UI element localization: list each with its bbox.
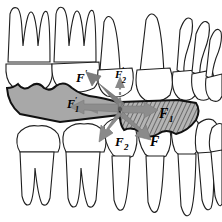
molar-root-2 bbox=[54, 7, 96, 62]
dental-force-diagram: F ′ F ′ 2 F ′ 1 F 1 F 2 F bbox=[0, 0, 222, 222]
premolar-crown-2 bbox=[136, 68, 173, 102]
label-F-1-sub: 1 bbox=[169, 114, 174, 124]
label-F-prime-base: F bbox=[75, 70, 85, 85]
label-F-1-base: F bbox=[158, 106, 169, 121]
label-F-2-sub: 2 bbox=[123, 142, 129, 152]
label-F-prime-1-base: F bbox=[66, 97, 75, 111]
canine-crown-3 bbox=[206, 74, 222, 101]
figure-canvas: F ′ F ′ 2 F ′ 1 F 1 F 2 F bbox=[0, 0, 222, 222]
molar-root-1 bbox=[8, 8, 50, 62]
label-F-prime-1-sub: 1 bbox=[75, 105, 79, 114]
label-F-prime-1-mark: ′ bbox=[75, 96, 77, 105]
label-F-base: F bbox=[149, 134, 160, 149]
label-F-prime-2-sub: 2 bbox=[121, 76, 126, 85]
label-F: F bbox=[149, 134, 160, 149]
label-F-prime-2-mark: ′ bbox=[122, 66, 124, 75]
force-origin-point bbox=[118, 107, 122, 111]
label-F-2-base: F bbox=[114, 134, 124, 149]
lower-molar-crown-1 bbox=[17, 126, 60, 152]
